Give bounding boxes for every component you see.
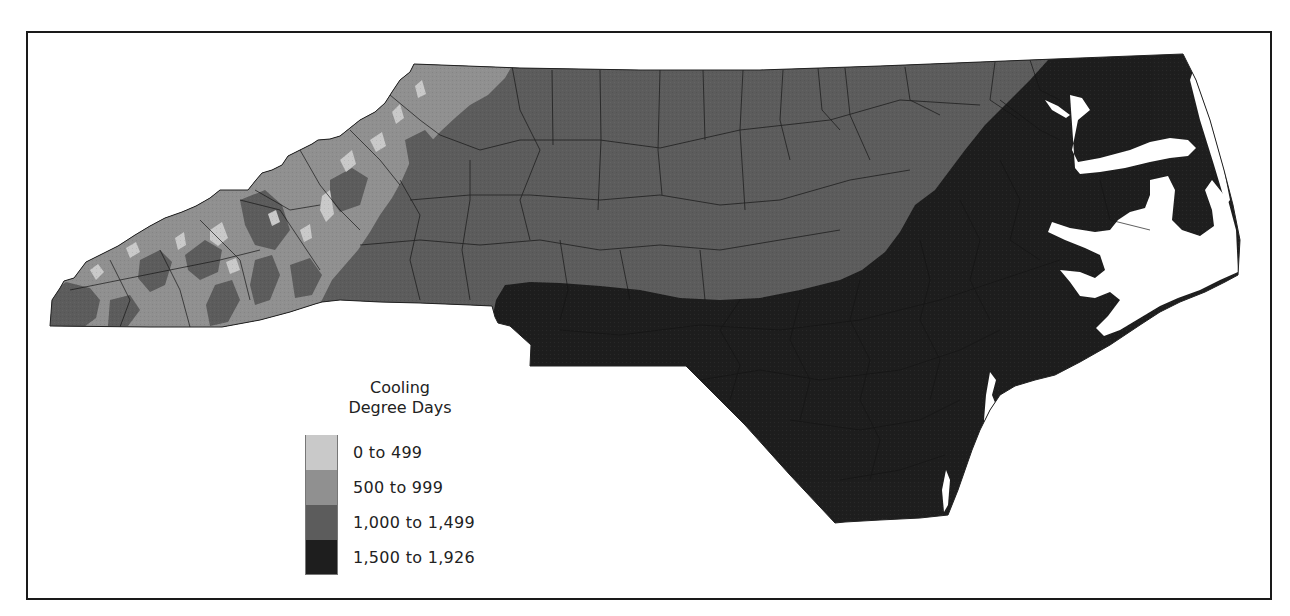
legend-label: 0 to 499 [353, 443, 422, 462]
legend-title-line2: Degree Days [340, 398, 460, 418]
legend-title: Cooling Degree Days [340, 378, 460, 418]
legend-item-0-499: 0 to 499 [304, 435, 524, 470]
legend-label: 1,000 to 1,499 [353, 513, 475, 532]
legend-item-1000-1499: 1,000 to 1,499 [304, 505, 524, 540]
north-carolina-map [0, 0, 1290, 616]
legend-swatch-0-499 [305, 435, 338, 470]
state-fill-group [0, 0, 1290, 616]
legend-item-1500-1926: 1,500 to 1,926 [304, 540, 524, 575]
legend-item-500-999: 500 to 999 [304, 470, 524, 505]
legend-swatch-1500-1926 [305, 540, 338, 575]
legend-swatch-500-999 [305, 470, 338, 505]
legend-label: 500 to 999 [353, 478, 443, 497]
legend-title-line1: Cooling [340, 378, 460, 398]
legend-label: 1,500 to 1,926 [353, 548, 475, 567]
legend-swatch-1000-1499 [305, 505, 338, 540]
